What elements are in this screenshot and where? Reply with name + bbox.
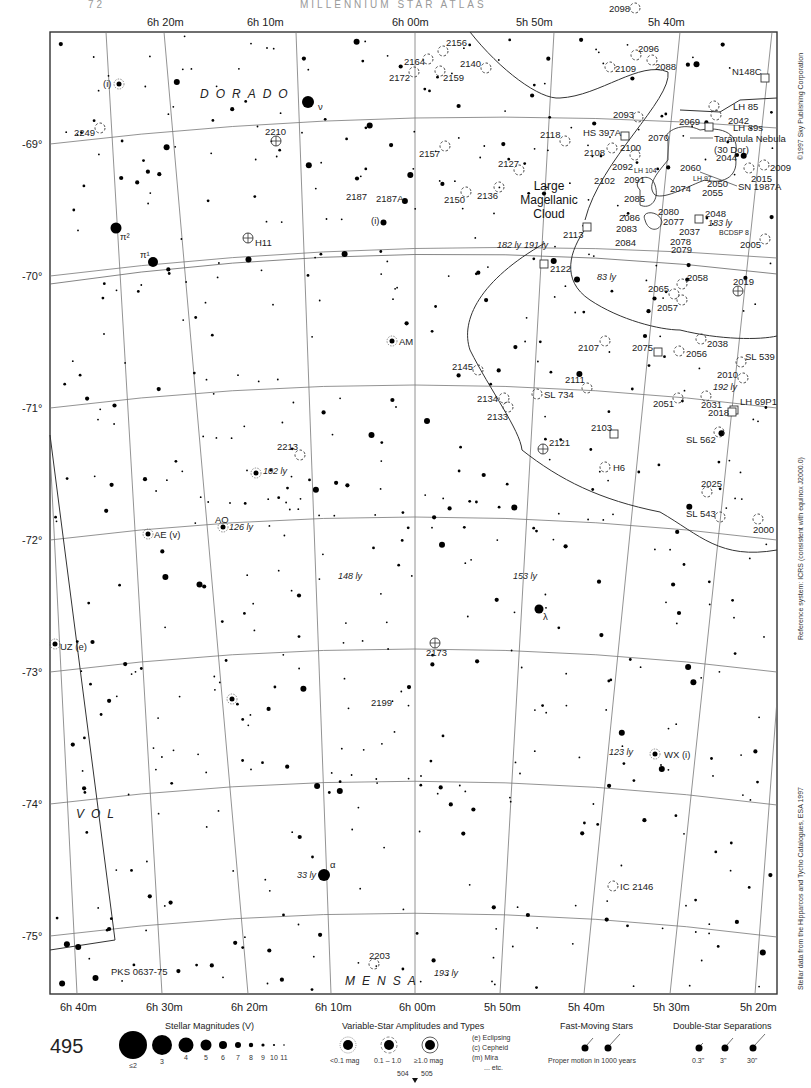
nebula-icon — [540, 260, 548, 268]
star — [166, 479, 168, 481]
star — [770, 263, 772, 265]
star — [757, 420, 759, 422]
star — [546, 57, 550, 61]
star — [545, 607, 547, 609]
star — [98, 154, 100, 156]
ra-label: 5h 40m — [568, 1001, 605, 1013]
svg-text:3": 3" — [720, 1057, 727, 1064]
star — [273, 48, 275, 50]
open-cluster: SL 543 — [686, 508, 725, 522]
star — [267, 948, 271, 952]
cluster-label: 2000 — [753, 524, 774, 535]
star — [355, 176, 359, 180]
star — [149, 56, 151, 58]
star — [470, 559, 472, 561]
star — [103, 282, 106, 285]
star — [98, 90, 100, 92]
nebula: HS 397A — [583, 127, 629, 140]
star — [661, 115, 664, 118]
star — [161, 756, 163, 758]
star — [405, 321, 409, 325]
star — [459, 785, 461, 787]
distance-label: 123 ly — [609, 747, 634, 757]
star — [236, 703, 239, 706]
star — [380, 273, 382, 275]
star — [351, 774, 353, 776]
nebula: 2075 — [632, 342, 662, 356]
star — [395, 406, 397, 408]
star — [648, 364, 651, 367]
star — [119, 176, 123, 180]
cluster-label: 2145 — [452, 361, 473, 372]
star — [267, 498, 269, 500]
star — [343, 642, 345, 644]
star — [298, 924, 300, 926]
star — [740, 754, 742, 756]
star — [459, 446, 462, 449]
star — [448, 506, 452, 510]
nebula-label: 2122 — [550, 263, 571, 274]
star — [170, 782, 173, 785]
star — [484, 298, 488, 302]
greek-designation: π¹ — [140, 249, 150, 260]
greek-designation: λ — [543, 611, 548, 622]
object-label: 2199 — [371, 697, 392, 708]
star — [367, 123, 373, 129]
star — [182, 319, 184, 321]
open-cluster: 2140 — [460, 58, 491, 73]
svg-text:0.1 – 1.0: 0.1 – 1.0 — [374, 1057, 401, 1064]
star — [174, 146, 176, 148]
star — [267, 707, 271, 711]
star — [65, 131, 67, 133]
cluster-icon — [607, 143, 617, 153]
star — [376, 782, 378, 784]
star — [184, 35, 186, 37]
magnitude-scale: ≤234567891011 — [119, 1031, 288, 1069]
star — [548, 116, 551, 119]
cluster-icon — [677, 295, 687, 305]
star — [741, 498, 743, 500]
star — [157, 387, 161, 391]
star — [261, 269, 263, 271]
greek-designation: π² — [120, 231, 130, 242]
star — [362, 640, 364, 642]
star — [90, 640, 94, 644]
star — [284, 535, 286, 537]
star — [758, 986, 760, 988]
magnitude-dot — [119, 1031, 147, 1059]
star — [135, 671, 137, 673]
open-cluster: 2000 — [753, 514, 774, 535]
svg-text:30": 30" — [747, 1057, 758, 1064]
magnitude-label: 3 — [160, 1058, 164, 1065]
magnitude-label: 9 — [261, 1054, 265, 1061]
star — [598, 51, 600, 53]
star — [611, 290, 614, 293]
star — [140, 667, 143, 670]
ra-label: 5h 20m — [740, 1001, 777, 1013]
star — [725, 507, 727, 509]
star — [252, 603, 254, 605]
star — [281, 221, 283, 223]
cluster-label: 2164 — [404, 56, 425, 67]
open-cluster: 2157 — [419, 141, 450, 159]
nebula: N148C — [732, 66, 769, 82]
distance-label: 126 ly — [229, 522, 254, 532]
star — [289, 509, 291, 511]
star — [440, 182, 444, 186]
star — [297, 593, 301, 597]
star — [216, 437, 218, 439]
star — [207, 501, 209, 503]
star — [448, 275, 450, 277]
star — [278, 570, 280, 572]
cluster-label: SL 562 — [686, 434, 716, 445]
double-star-symbols: 0.3" 3" 30" — [692, 1034, 765, 1064]
lmc-object-label: 2085 — [624, 193, 645, 204]
cluster-label: 2150 — [444, 194, 465, 205]
star — [79, 374, 82, 377]
star — [300, 686, 306, 692]
cluster-icon — [696, 334, 706, 344]
distance-labels: 182 ly191 ly83 ly102 ly126 ly148 ly153 l… — [229, 218, 738, 978]
star — [358, 807, 360, 809]
galactic-line — [50, 254, 777, 284]
star — [734, 652, 737, 655]
